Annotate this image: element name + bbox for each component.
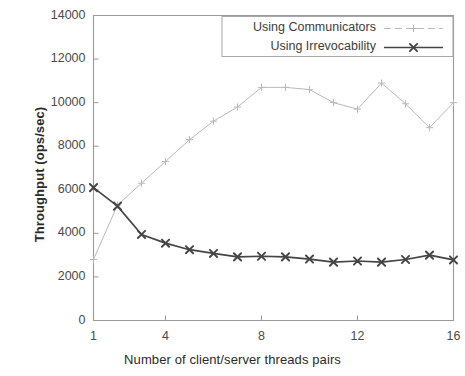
series-line	[94, 83, 454, 259]
y-axis-title: Throughput (ops/sec)	[32, 50, 47, 300]
y-tick-label: 10000	[30, 95, 86, 109]
legend-sample-1	[384, 25, 443, 31]
chart-series-2	[90, 184, 457, 266]
x-tick-label: 16	[434, 329, 465, 343]
series-marker	[282, 84, 288, 90]
x-axis-title: Number of client/server threads pairs	[0, 352, 465, 367]
y-axis-ticks	[94, 16, 99, 321]
series-marker	[138, 231, 145, 238]
series-marker	[306, 86, 312, 92]
x-axis-ticks	[94, 316, 454, 321]
x-tick-label: 1	[74, 329, 114, 343]
x-tick-label: 12	[338, 329, 378, 343]
y-tick-label: 12000	[30, 51, 86, 65]
legend-label-1: Using Communicators	[253, 20, 376, 34]
y-tick-label: 14000	[30, 8, 86, 22]
y-tick-label: 6000	[30, 182, 86, 196]
series-marker	[90, 256, 96, 262]
series-line	[94, 188, 454, 262]
legend-sample-2	[384, 44, 443, 51]
y-tick-label: 8000	[30, 138, 86, 152]
y-tick-label: 0	[30, 313, 86, 327]
x-tick-label: 4	[146, 329, 186, 343]
y-tick-label: 4000	[30, 225, 86, 239]
plot-frame	[94, 16, 454, 321]
legend-label-2: Using Irrevocability	[270, 39, 376, 53]
x-tick-label: 8	[242, 329, 282, 343]
chart-figure: Throughput (ops/sec) Number of client/se…	[0, 0, 465, 376]
y-tick-label: 2000	[30, 269, 86, 283]
series-marker	[330, 99, 336, 105]
